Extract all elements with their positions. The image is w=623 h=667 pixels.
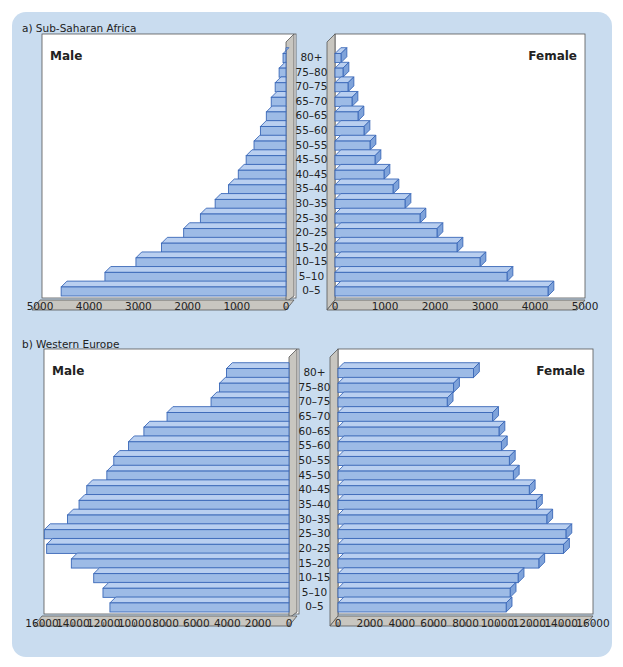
x-tick-label: 0 xyxy=(332,300,339,312)
x-tick-label: 6000 xyxy=(183,617,210,629)
age-group-label: 15–20 xyxy=(299,557,331,569)
age-group-label: 55–60 xyxy=(299,439,331,451)
male-bar-top xyxy=(87,480,289,486)
age-group-label: 35–40 xyxy=(299,498,331,510)
female-bar-top xyxy=(335,179,399,185)
age-group-label: 60–65 xyxy=(299,425,331,437)
male-bar xyxy=(67,515,289,524)
female-bar xyxy=(335,258,480,267)
female-bar-top xyxy=(338,509,553,515)
female-bar xyxy=(335,112,358,121)
female-bar-top xyxy=(338,392,453,398)
female-bar-top xyxy=(338,377,459,383)
female-bar xyxy=(338,486,529,495)
female-bar xyxy=(335,243,457,252)
age-group-label: 30–35 xyxy=(299,513,331,525)
female-bar-top xyxy=(338,363,479,369)
female-bar xyxy=(338,530,566,539)
female-bar xyxy=(338,544,564,553)
male-bar-top xyxy=(44,524,289,530)
female-bar-top xyxy=(338,407,498,413)
female-bar xyxy=(338,500,536,509)
female-bar-top xyxy=(335,135,376,141)
female-bar-top xyxy=(335,267,513,273)
x-tick-label: 3000 xyxy=(472,300,499,312)
x-tick-label: 3000 xyxy=(125,300,152,312)
female-bar-top xyxy=(338,568,524,574)
male-bar xyxy=(275,83,286,92)
female-bar xyxy=(335,126,364,135)
female-bar xyxy=(338,456,509,465)
x-tick-label: 8000 xyxy=(152,617,179,629)
x-tick-label: 4000 xyxy=(76,300,103,312)
female-bar-top xyxy=(338,538,569,544)
male-bar xyxy=(228,185,286,194)
female-bar xyxy=(335,272,507,281)
female-bar-top xyxy=(335,150,381,156)
male-bar-top xyxy=(71,553,289,559)
age-group-label: 5–10 xyxy=(299,270,324,282)
age-group-label: 80+ xyxy=(300,51,322,63)
female-bar xyxy=(338,603,506,612)
female-bar xyxy=(335,97,352,106)
x-tick-label: 14000 xyxy=(56,617,89,629)
male-bar xyxy=(254,141,286,150)
age-group-label: 15–20 xyxy=(296,241,328,253)
x-tick-label: 10000 xyxy=(481,617,514,629)
male-bar-top xyxy=(162,237,286,243)
population-pyramids: MaleFemale80+75–8070–7565–7060–6555–6050… xyxy=(0,0,623,667)
male-bar-top xyxy=(220,377,289,383)
male-bar xyxy=(283,54,286,63)
male-bar-top xyxy=(136,252,286,258)
x-tick-label: 0 xyxy=(286,617,293,629)
male-bar xyxy=(110,603,289,612)
female-bar xyxy=(338,383,454,392)
male-bar-top xyxy=(228,179,286,185)
male-bar-top xyxy=(215,194,286,200)
male-bar xyxy=(136,258,286,267)
male-bar xyxy=(162,243,286,252)
age-group-label: 75–80 xyxy=(296,66,328,78)
male-bar xyxy=(128,442,289,451)
male-bar xyxy=(114,456,289,465)
x-tick-label: 0 xyxy=(283,300,290,312)
age-group-label: 75–80 xyxy=(299,381,331,393)
age-group-label: 55–60 xyxy=(296,124,328,136)
male-bar-top xyxy=(47,538,289,544)
male-bar xyxy=(94,574,289,583)
x-tick-label: 2000 xyxy=(245,617,272,629)
male-bar-top xyxy=(200,208,286,214)
female-bar xyxy=(335,214,420,223)
female-bar xyxy=(335,170,384,179)
male-bar-top xyxy=(105,267,286,273)
female-bar-top xyxy=(338,421,505,427)
age-group-label: 50–55 xyxy=(299,454,331,466)
male-bar-top xyxy=(94,568,289,574)
male-bar xyxy=(107,471,289,480)
male-bar-top xyxy=(226,363,289,369)
x-tick-label: 12000 xyxy=(87,617,120,629)
age-group-label: 60–65 xyxy=(296,109,328,121)
female-label: Female xyxy=(536,364,585,378)
age-group-label: 70–75 xyxy=(299,395,331,407)
age-group-label: 25–30 xyxy=(296,212,328,224)
male-bar-top xyxy=(167,407,289,413)
female-bar xyxy=(335,229,437,238)
male-bar xyxy=(71,559,289,568)
male-bar xyxy=(87,486,289,495)
female-bar xyxy=(338,559,539,568)
female-bar-top xyxy=(335,164,390,170)
age-group-label: 40–45 xyxy=(299,483,331,495)
male-bar xyxy=(266,112,286,121)
x-tick-label: 4000 xyxy=(388,617,415,629)
x-tick-label: 5000 xyxy=(27,300,54,312)
x-tick-label: 0 xyxy=(335,617,342,629)
male-bar xyxy=(211,398,289,407)
male-bar xyxy=(105,272,286,281)
male-bar-top xyxy=(79,495,289,501)
x-tick-label: 1000 xyxy=(372,300,399,312)
male-bar-top xyxy=(107,465,289,471)
age-group-label: 5–10 xyxy=(302,586,327,598)
age-group-label: 65–70 xyxy=(299,410,331,422)
age-group-label: 20–25 xyxy=(296,226,328,238)
